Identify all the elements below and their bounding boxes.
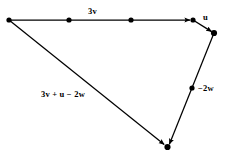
resultant-vector-line bbox=[9, 20, 164, 145]
label-resultant: 3v + u − 2w bbox=[41, 90, 85, 99]
label-u: u bbox=[203, 13, 208, 22]
vertex-dot-v-mid-2 bbox=[128, 17, 133, 22]
vector-diagram-canvas bbox=[0, 0, 225, 155]
vertex-dot-origin bbox=[6, 17, 11, 22]
vector-diagram-figure: 3v u −2w 3v + u − 2w bbox=[0, 0, 225, 155]
vertex-dot-v-end bbox=[190, 17, 195, 22]
label-negative-two-w: −2w bbox=[198, 84, 214, 93]
vertex-dot-v-mid-1 bbox=[66, 17, 71, 22]
vertex-dot-terminus bbox=[164, 144, 170, 150]
vertex-dot-u-end bbox=[211, 30, 217, 36]
vertex-dot-w-mid bbox=[189, 85, 194, 90]
label-three-v: 3v bbox=[88, 7, 97, 16]
